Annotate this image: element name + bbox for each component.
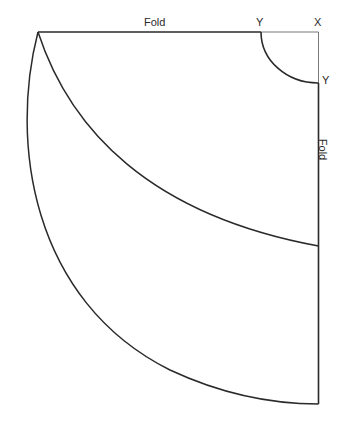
outer-hem-curve [27, 32, 318, 404]
inner-hem-curve [38, 32, 319, 246]
fold-label-top: Fold [144, 17, 165, 28]
pattern-diagram: Fold Y X Y Fold [0, 0, 346, 425]
fold-label-right: Fold [317, 139, 328, 160]
pattern-drawing [0, 0, 346, 425]
waist-point-label-top: Y [256, 17, 263, 28]
corner-label: X [314, 17, 321, 28]
waist-point-label-right: Y [322, 75, 329, 86]
waist-curve [261, 32, 319, 83]
